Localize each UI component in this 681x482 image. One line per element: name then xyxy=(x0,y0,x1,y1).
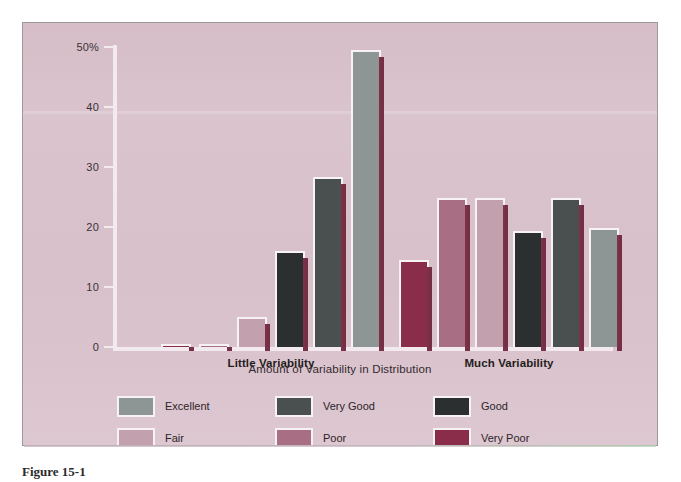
y-axis-tick-label: 30 xyxy=(86,161,99,173)
bar-little-variability-very-poor xyxy=(161,344,191,347)
legend-swatch xyxy=(117,428,155,447)
bar-little-variability-poor xyxy=(199,344,229,347)
y-axis-tick xyxy=(104,46,113,48)
bar-much-variability-poor xyxy=(437,198,467,347)
legend-item-good[interactable]: Good xyxy=(433,391,563,421)
bar-little-variability-excellent xyxy=(351,50,381,347)
bar-little-variability-very-good xyxy=(313,177,343,347)
y-axis-tick xyxy=(104,286,113,288)
y-axis-line xyxy=(113,45,117,351)
legend-swatch xyxy=(275,428,313,447)
legend-label: Very Good xyxy=(323,400,375,412)
legend-swatch xyxy=(433,428,471,447)
y-axis-tick xyxy=(104,106,113,108)
legend-item-poor[interactable]: Poor xyxy=(275,423,405,446)
y-axis-tick-label: 20 xyxy=(86,221,99,233)
legend-swatch xyxy=(117,396,155,417)
chart-legend: ExcellentVery GoodGoodFairPoorVery Poor xyxy=(23,391,657,446)
bar-much-variability-very-poor xyxy=(399,260,429,347)
legend-label: Excellent xyxy=(165,400,210,412)
legend-item-very-good[interactable]: Very Good xyxy=(275,391,405,421)
legend-item-excellent[interactable]: Excellent xyxy=(117,391,247,421)
y-axis-tick-label: 10 xyxy=(86,281,99,293)
y-axis-tick xyxy=(104,166,113,168)
plot-area: 01020304050% Little VariabilityMuch Vari… xyxy=(113,45,613,351)
legend-label: Poor xyxy=(323,432,346,444)
bar-much-variability-excellent xyxy=(589,228,619,347)
legend-label: Fair xyxy=(165,432,184,444)
figure-caption: Figure 15-1 xyxy=(22,462,86,482)
legend-item-fair[interactable]: Fair xyxy=(117,423,247,446)
bar-little-variability-fair xyxy=(237,317,267,347)
bar-much-variability-good xyxy=(513,231,543,347)
legend-swatch xyxy=(275,396,313,417)
x-axis-title: Amount of Variability in Distribution xyxy=(23,363,657,375)
scan-bottom-rule xyxy=(24,445,656,447)
bar-much-variability-fair xyxy=(475,198,505,347)
legend-item-very-poor[interactable]: Very Poor xyxy=(433,423,563,446)
bar-much-variability-very-good xyxy=(551,198,581,347)
bar-little-variability-good xyxy=(275,251,305,347)
legend-label: Very Poor xyxy=(481,432,529,444)
x-axis-line xyxy=(113,347,613,351)
y-axis-tick xyxy=(104,346,113,348)
legend-swatch xyxy=(433,396,471,417)
y-axis-tick xyxy=(104,226,113,228)
figure-panel: 01020304050% Little VariabilityMuch Vari… xyxy=(22,22,658,446)
y-axis-tick-label: 0 xyxy=(93,341,99,353)
y-axis-tick-label: 50% xyxy=(76,41,99,53)
y-axis-tick-label: 40 xyxy=(86,101,99,113)
legend-label: Good xyxy=(481,400,508,412)
